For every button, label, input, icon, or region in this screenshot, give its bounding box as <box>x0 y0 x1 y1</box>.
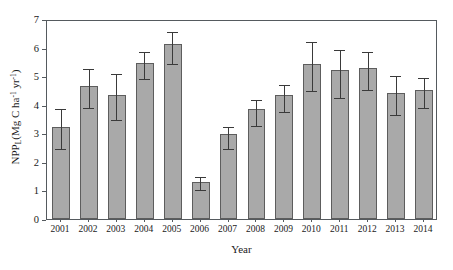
error-bar-line <box>61 109 62 149</box>
error-bar-line <box>312 42 313 91</box>
error-bar-cap-upper <box>362 52 373 53</box>
error-bar-line <box>89 69 90 108</box>
error-bar-cap-upper <box>195 177 206 178</box>
error-bar-cap-upper <box>167 32 178 33</box>
error-bar-line <box>200 177 201 190</box>
y-tick-label: 4 <box>1 100 39 111</box>
bar-group[interactable] <box>410 21 438 219</box>
error-bar-cap-lower <box>223 149 234 150</box>
error-bar-cap-lower <box>279 112 290 113</box>
bars-layer <box>47 21 436 219</box>
y-tick-label: 2 <box>1 158 39 169</box>
error-bar-cap-upper <box>55 109 66 110</box>
plot-area <box>46 20 437 220</box>
bar-2014[interactable] <box>415 90 433 219</box>
error-bar-line <box>368 52 369 90</box>
bar-2005[interactable] <box>164 44 182 219</box>
bar-group[interactable] <box>382 21 410 219</box>
y-tick-label: 1 <box>1 186 39 197</box>
error-bar-line <box>116 74 117 120</box>
bar-group[interactable] <box>187 21 215 219</box>
error-bar-line <box>172 32 173 64</box>
x-axis: 2001200220032004200520062007200820092010… <box>46 222 437 238</box>
y-axis: 01234567 <box>0 20 46 220</box>
bar-group[interactable] <box>131 21 159 219</box>
x-axis-title: Year <box>46 243 437 255</box>
error-bar-cap-upper <box>418 78 429 79</box>
error-bar-cap-lower <box>167 64 178 65</box>
error-bar-cap-lower <box>306 91 317 92</box>
error-bar-cap-lower <box>55 149 66 150</box>
error-bar-cap-lower <box>418 108 429 109</box>
bar-group[interactable] <box>159 21 187 219</box>
bar-group[interactable] <box>215 21 243 219</box>
error-bar-cap-lower <box>251 126 262 127</box>
bar-group[interactable] <box>298 21 326 219</box>
y-tick-label: 6 <box>1 43 39 54</box>
error-bar-cap-upper <box>223 127 234 128</box>
error-bar-line <box>396 76 397 115</box>
error-bar-line <box>256 100 257 126</box>
error-bar-cap-lower <box>195 190 206 191</box>
y-tick-label: 3 <box>1 129 39 140</box>
bar-group[interactable] <box>243 21 271 219</box>
error-bar-cap-upper <box>390 76 401 77</box>
bar-group[interactable] <box>103 21 131 219</box>
error-bar-line <box>144 52 145 80</box>
figure-canvas: NPPL(Mg C ha-1 yr-1) 01234567 2001200220… <box>0 0 453 270</box>
error-bar-line <box>228 127 229 150</box>
error-bar-line <box>424 78 425 108</box>
bar-group[interactable] <box>270 21 298 219</box>
error-bar-cap-upper <box>139 52 150 53</box>
bar-2009[interactable] <box>275 95 293 219</box>
bar-2004[interactable] <box>136 63 154 219</box>
error-bar-cap-lower <box>83 108 94 109</box>
error-bar-cap-upper <box>83 69 94 70</box>
y-tick-label: 5 <box>1 72 39 83</box>
bar-group[interactable] <box>47 21 75 219</box>
x-tick-label-2014: 2014 <box>403 222 443 236</box>
error-bar-cap-lower <box>111 120 122 121</box>
bar-group[interactable] <box>75 21 103 219</box>
error-bar-cap-upper <box>251 100 262 101</box>
y-tick-mark <box>42 220 46 221</box>
error-bar-cap-upper <box>306 42 317 43</box>
error-bar-line <box>340 50 341 98</box>
error-bar-cap-lower <box>334 98 345 99</box>
error-bar-cap-upper <box>334 50 345 51</box>
error-bar-line <box>284 85 285 112</box>
bar-group[interactable] <box>354 21 382 219</box>
y-tick-label: 0 <box>1 215 39 226</box>
y-tick-label: 7 <box>1 15 39 26</box>
bar-group[interactable] <box>326 21 354 219</box>
error-bar-cap-lower <box>139 79 150 80</box>
error-bar-cap-lower <box>362 90 373 91</box>
error-bar-cap-lower <box>390 115 401 116</box>
error-bar-cap-upper <box>279 85 290 86</box>
error-bar-cap-upper <box>111 74 122 75</box>
